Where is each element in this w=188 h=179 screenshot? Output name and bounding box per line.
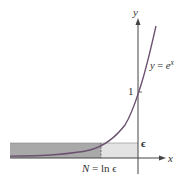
x-axis-label: x: [167, 152, 173, 164]
curve-label: y = ex: [149, 58, 175, 71]
y-axis-label: y: [132, 6, 138, 18]
tick-label-one: 1: [128, 85, 134, 97]
exponential-curve: [10, 26, 156, 156]
exponential-diagram: y x y = ex 1 ϵ N = ln ϵ: [0, 0, 188, 179]
tick-label-epsilon: ϵ: [141, 137, 146, 149]
y-axis-arrow-icon: [136, 18, 141, 25]
x-axis-arrow-icon: [159, 156, 166, 161]
n-label: N = ln ϵ: [81, 162, 117, 174]
light-shaded-region: [101, 143, 138, 158]
